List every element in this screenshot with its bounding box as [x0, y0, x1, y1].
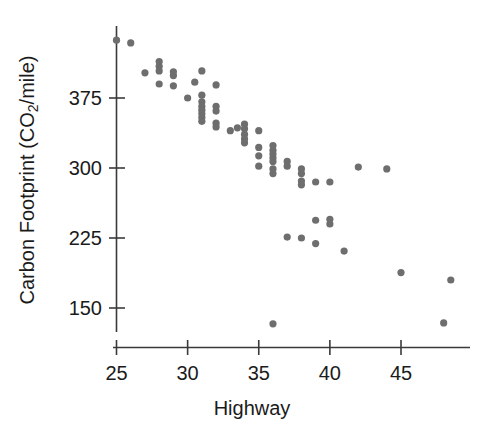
data-point — [397, 269, 404, 276]
x-axis-title: Highway — [214, 397, 291, 419]
data-point — [141, 69, 148, 76]
data-point — [326, 178, 333, 185]
data-point — [341, 247, 348, 254]
x-tick-label-30: 30 — [177, 362, 199, 384]
data-point — [191, 79, 198, 86]
data-point — [241, 139, 248, 146]
scatter-plot-figure: 150225300375 2530354045 Highway Carbon F… — [0, 0, 481, 440]
data-point — [255, 127, 262, 134]
data-point — [440, 319, 447, 326]
data-point — [127, 39, 134, 46]
data-point — [156, 67, 163, 74]
data-point — [255, 144, 262, 151]
data-point — [269, 158, 276, 165]
data-points-layer — [113, 37, 454, 328]
data-point — [312, 178, 319, 185]
data-point — [447, 276, 454, 283]
data-point — [184, 94, 191, 101]
data-point — [234, 124, 241, 131]
data-point — [269, 170, 276, 177]
data-point — [170, 82, 177, 89]
data-point — [298, 170, 305, 177]
y-axis-title-group: Carbon Footprint (CO2/mile) — [16, 56, 41, 305]
y-tick-label-150: 150 — [69, 297, 102, 319]
x-tick-label-45: 45 — [390, 362, 412, 384]
y-tick-label-300: 300 — [69, 157, 102, 179]
data-point — [198, 118, 205, 125]
x-axis-tick-labels: 2530354045 — [105, 362, 412, 384]
data-point — [198, 92, 205, 99]
data-point — [312, 217, 319, 224]
data-point — [212, 107, 219, 114]
data-point — [355, 163, 362, 170]
data-point — [326, 220, 333, 227]
data-point — [312, 240, 319, 247]
data-point — [255, 163, 262, 170]
chart-canvas: 150225300375 2530354045 Highway Carbon F… — [0, 0, 481, 440]
data-point — [227, 127, 234, 134]
data-point — [284, 163, 291, 170]
data-point — [212, 81, 219, 88]
x-tick-label-35: 35 — [248, 362, 270, 384]
data-point — [269, 320, 276, 327]
y-tick-label-375: 375 — [69, 87, 102, 109]
x-tick-label-40: 40 — [319, 362, 341, 384]
y-axis-tick-labels: 150225300375 — [69, 87, 102, 319]
data-point — [298, 181, 305, 188]
x-tick-label-25: 25 — [105, 362, 127, 384]
data-point — [255, 152, 262, 159]
data-point — [298, 234, 305, 241]
data-point — [198, 67, 205, 74]
data-point — [156, 80, 163, 87]
data-point — [284, 233, 291, 240]
y-axis-title: Carbon Footprint (CO2/mile) — [16, 56, 41, 305]
y-tick-label-225: 225 — [69, 227, 102, 249]
data-point — [170, 72, 177, 79]
data-point — [212, 123, 219, 130]
data-point — [113, 37, 120, 44]
data-point — [383, 165, 390, 172]
